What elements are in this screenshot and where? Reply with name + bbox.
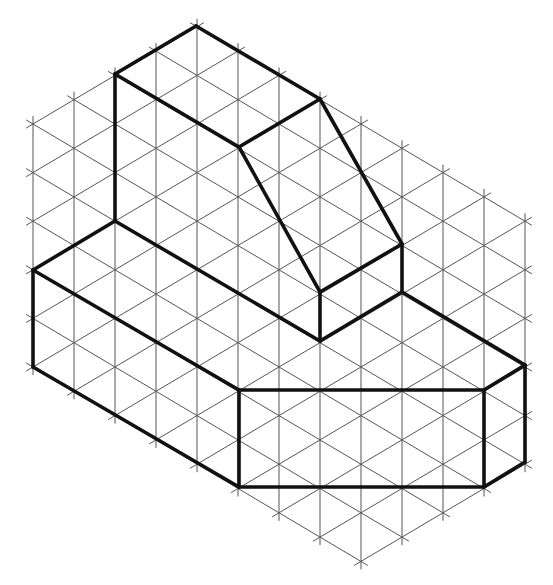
outline-edge xyxy=(484,365,525,390)
isometric-drawing xyxy=(0,0,553,585)
grid-line-rising xyxy=(26,144,409,371)
grid-line-falling xyxy=(26,314,409,541)
grid-line-falling xyxy=(26,217,491,492)
grid-line-rising xyxy=(26,47,245,177)
outline-edge xyxy=(33,270,239,390)
grid-line-falling xyxy=(149,47,532,274)
grid-line-rising xyxy=(67,169,450,396)
outline-edge xyxy=(33,367,239,487)
grid-line-rising xyxy=(108,193,491,420)
outline-edge xyxy=(484,462,525,487)
